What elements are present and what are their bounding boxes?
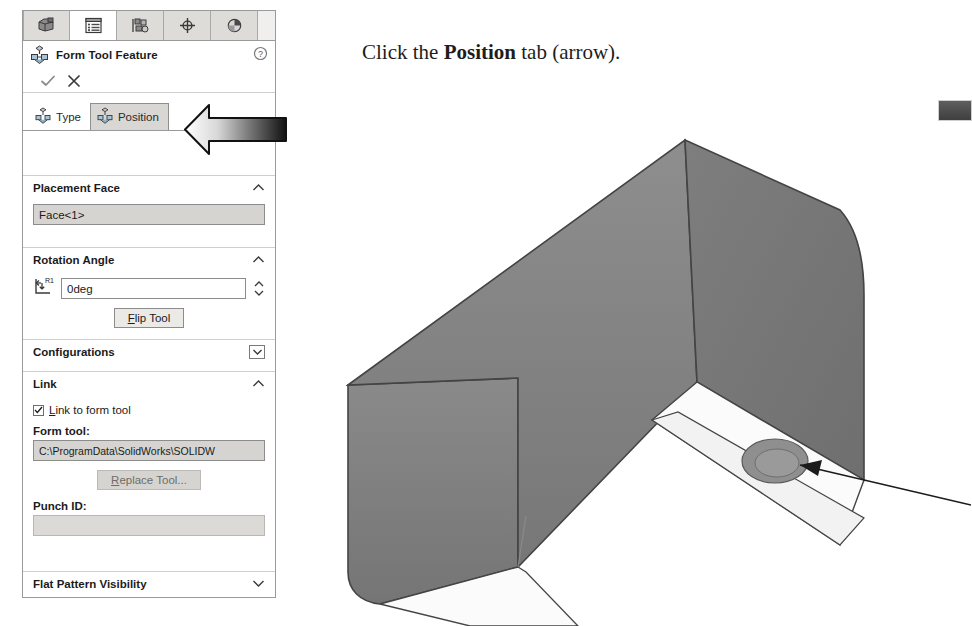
tab-property-manager[interactable] <box>70 11 117 40</box>
instruction-text: Click the Position tab (arrow). <box>362 40 782 65</box>
part-cube-icon <box>36 17 57 34</box>
appearance-sphere-icon <box>225 17 244 34</box>
section-rotation-angle: Rotation Angle R1 0deg <box>23 247 275 339</box>
replace-tool-button[interactable]: Replace Tool... <box>97 470 201 490</box>
panel-header: Form Tool Feature ? <box>23 41 275 69</box>
ok-button[interactable] <box>35 71 61 91</box>
help-question-icon[interactable]: ? <box>253 46 268 65</box>
left-wall <box>348 378 518 604</box>
rotation-angle-icon-label: R1 <box>45 277 54 284</box>
section-link: Link Link to form tool Form tool: C:\Pro… <box>23 371 275 571</box>
chevron-up-icon[interactable] <box>252 378 265 390</box>
punch-id-field[interactable] <box>33 515 265 536</box>
form-tool-path-field[interactable]: C:\ProgramData\SolidWorks\SOLIDW <box>33 440 265 461</box>
flip-tool-label: lip Tool <box>135 312 171 324</box>
tab-position[interactable]: Position <box>90 103 169 130</box>
section-flat-pattern-visibility-header[interactable]: Flat Pattern Visibility <box>33 572 265 596</box>
chevron-down-boxed-icon[interactable] <box>249 345 265 359</box>
tab-type-label: Type <box>56 111 81 123</box>
chevron-up-icon[interactable] <box>252 182 265 194</box>
tab-position-label: Position <box>118 111 159 123</box>
tab-appearances-manager[interactable] <box>211 11 258 40</box>
position-tab-callout-arrow <box>183 102 288 157</box>
instruction-bold-term: Position <box>444 40 516 64</box>
instruction-after: tab (arrow). <box>516 40 620 64</box>
section-rotation-angle-title: Rotation Angle <box>33 254 114 266</box>
cropped-edge-element <box>938 100 972 121</box>
page-title: Form Tool Feature <box>56 49 253 61</box>
flip-tool-button[interactable]: Flip Tool <box>114 308 185 328</box>
instruction-before: Click the <box>362 40 444 64</box>
rotation-angle-stepper[interactable] <box>252 279 265 298</box>
manager-tab-strip <box>23 11 275 41</box>
svg-text:?: ? <box>258 49 263 59</box>
form-tool-icon <box>30 45 49 65</box>
link-to-form-tool-row[interactable]: Link to form tool <box>33 401 265 419</box>
chevron-up-icon[interactable] <box>252 254 265 266</box>
tab-configuration-manager[interactable] <box>117 11 164 40</box>
tab-display-manager[interactable] <box>164 11 211 40</box>
placement-face-value[interactable]: Face<1> <box>33 204 265 225</box>
section-configurations-header[interactable]: Configurations <box>33 340 265 364</box>
section-rotation-angle-header[interactable]: Rotation Angle <box>33 248 265 272</box>
section-placement-face: Placement Face Face<1> <box>23 175 275 247</box>
form-tool-small-icon <box>97 107 113 127</box>
link-to-form-tool-label: Link to form tool <box>49 404 131 416</box>
tab-type[interactable]: Type <box>29 103 90 130</box>
chevron-down-icon[interactable] <box>252 578 265 590</box>
punch-id-label: Punch ID: <box>33 500 265 512</box>
cancel-button[interactable] <box>61 71 87 91</box>
crosshair-target-icon <box>178 17 197 34</box>
section-link-header[interactable]: Link <box>33 372 265 396</box>
link-to-form-tool-checkbox[interactable] <box>33 405 44 416</box>
rotation-angle-input[interactable]: 0deg <box>61 278 246 299</box>
section-flat-pattern-visibility-title: Flat Pattern Visibility <box>33 578 147 590</box>
form-tool-small-icon <box>35 107 51 127</box>
tab-feature-manager-design-tree[interactable] <box>23 11 70 40</box>
circular-emboss-feature <box>742 439 808 483</box>
sheet-metal-model <box>330 120 971 626</box>
section-configurations: Configurations <box>23 339 275 371</box>
section-placement-face-title: Placement Face <box>33 182 120 194</box>
section-flat-pattern-visibility: Flat Pattern Visibility <box>23 571 275 599</box>
section-configurations-title: Configurations <box>33 346 115 358</box>
section-placement-face-header[interactable]: Placement Face <box>33 176 265 200</box>
section-link-title: Link <box>33 378 57 390</box>
form-tool-label: Form tool: <box>33 425 265 437</box>
property-list-icon <box>84 17 103 34</box>
confirm-bar <box>23 69 275 93</box>
rotation-angle-icon: R1 <box>33 276 55 301</box>
configuration-icon <box>130 17 150 34</box>
property-manager-panel: Form Tool Feature ? <box>22 10 276 598</box>
